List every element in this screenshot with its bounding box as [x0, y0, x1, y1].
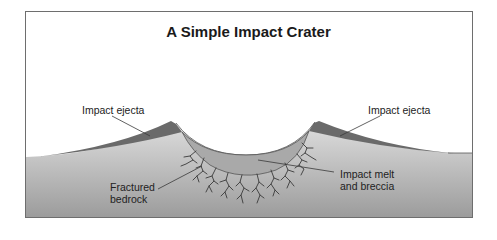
label-melt-line2: and breccia — [340, 180, 394, 192]
label-fractured-bedrock: Fractured bedrock — [110, 181, 155, 205]
label-ejecta-right: Impact ejecta — [368, 104, 430, 116]
label-bedrock-line2: bedrock — [110, 193, 155, 205]
label-melt-line1: Impact melt — [340, 168, 394, 180]
label-ejecta-left: Impact ejecta — [82, 104, 144, 116]
diagram-title: A Simple Impact Crater — [0, 23, 497, 40]
label-impact-melt: Impact melt and breccia — [340, 168, 394, 192]
label-bedrock-line1: Fractured — [110, 181, 155, 193]
